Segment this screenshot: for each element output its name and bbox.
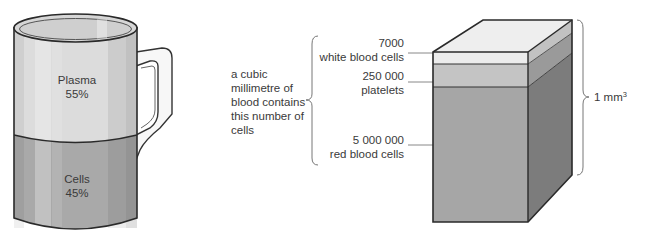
- cube-front-platelets: [433, 64, 528, 87]
- count-white-cells: 7000 white blood cells: [300, 36, 404, 64]
- plasma-percent: 55%: [55, 87, 99, 101]
- cells-percent: 45%: [55, 186, 99, 200]
- cells-name: Cells: [55, 172, 99, 186]
- plasma-name: Plasma: [55, 73, 99, 87]
- cube-front-white-cells: [433, 52, 528, 64]
- volume-label: 1 mm3: [594, 90, 627, 104]
- count-red-cells: 5 000 000 red blood cells: [300, 133, 404, 161]
- cube-front-red-cells: [433, 87, 528, 222]
- count-label: platelets: [300, 83, 404, 97]
- count-label: white blood cells: [300, 50, 404, 64]
- count-value: 5 000 000: [300, 133, 404, 147]
- volume-exponent: 3: [623, 90, 627, 99]
- plasma-label: Plasma 55%: [55, 73, 99, 101]
- count-value: 250 000: [300, 69, 404, 83]
- right-brace: [577, 20, 589, 175]
- volume-text: 1 mm: [594, 91, 623, 103]
- count-label: red blood cells: [300, 147, 404, 161]
- description-line: this number of: [231, 109, 321, 123]
- description-line: blood contains: [231, 95, 321, 109]
- count-platelets: 250 000 platelets: [300, 69, 404, 97]
- cube-illustration: [433, 20, 572, 222]
- count-value: 7000: [300, 36, 404, 50]
- mug-handle: [136, 48, 172, 160]
- cells-label: Cells 45%: [55, 172, 99, 200]
